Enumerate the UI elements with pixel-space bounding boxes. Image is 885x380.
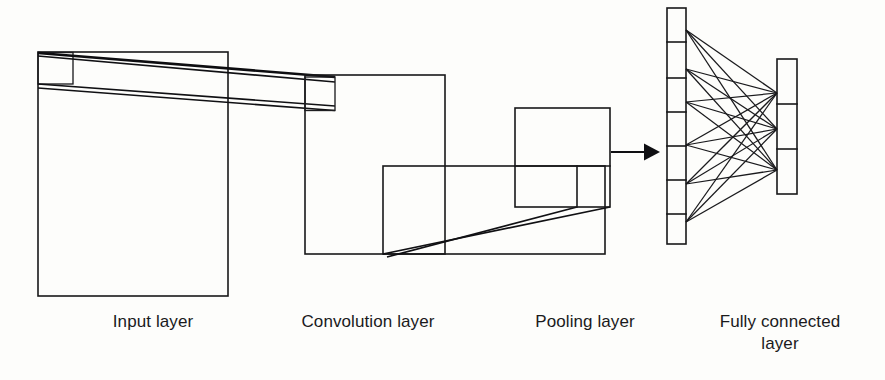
projection-line-bottom-b — [38, 88, 335, 111]
caption-input-layer: Input layer — [58, 311, 248, 333]
projection-line-top-a — [38, 53, 335, 77]
input-to-convolution-projection — [38, 53, 335, 111]
projection-line-bottom-a — [38, 84, 335, 106]
input-layer-group — [38, 52, 228, 296]
fc-edge — [686, 69, 777, 93]
projection-line-top-b — [38, 56, 335, 82]
caption-fully-connected-layer: Fully connected layer — [700, 311, 860, 355]
fc-edge — [686, 170, 777, 184]
fc-output-column-outline — [777, 59, 797, 194]
arrow-head-icon — [644, 144, 660, 161]
convolution-layer-group — [305, 75, 605, 254]
pooling-to-fc-arrow — [611, 144, 660, 161]
fully-connected-layer-group — [667, 8, 797, 244]
fc-hidden-column-outline — [667, 8, 686, 244]
caption-convolution-layer: Convolution layer — [258, 311, 478, 333]
convolution-layer-rect — [305, 75, 445, 254]
pooling-layer-group — [515, 108, 610, 207]
fc-output-column — [777, 59, 797, 194]
pool-projection-line-lower — [387, 207, 577, 257]
convolution-to-pooling-projection — [383, 207, 610, 257]
pool-projection-line-upper — [383, 207, 610, 254]
fc-hidden-column — [667, 8, 686, 244]
cnn-architecture-diagram: Input layer Convolution layer Pooling la… — [0, 0, 885, 380]
fc-edge — [686, 170, 777, 222]
fc-connections — [686, 30, 777, 222]
fc-edge — [686, 30, 777, 129]
caption-pooling-layer: Pooling layer — [490, 311, 680, 333]
input-layer-rect — [38, 52, 228, 296]
pooling-layer-rect — [515, 108, 610, 207]
convolution-secondary-rect — [383, 166, 605, 254]
